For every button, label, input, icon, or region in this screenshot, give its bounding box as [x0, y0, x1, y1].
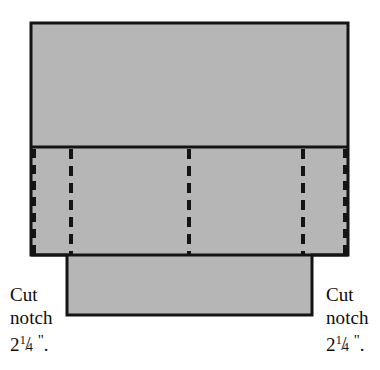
cut-notch-label-left: Cut notch 21/4".: [10, 283, 53, 356]
period-right: .: [360, 334, 365, 355]
fraction-denominator-left: 4: [27, 336, 33, 359]
period-left: .: [44, 334, 49, 355]
cut-notch-label-left-line2: notch: [10, 306, 53, 329]
fraction-right: 1/4: [336, 332, 354, 351]
cut-notch-label-right-line2: notch: [326, 306, 369, 329]
diagram-canvas: Cut notch 21/4". Cut notch 21/4".: [0, 0, 380, 370]
measure-whole-left: 2: [10, 334, 20, 355]
cut-notch-diagram: [0, 0, 380, 370]
cut-notch-label-left-measure: 21/4".: [10, 329, 53, 356]
cut-notch-label-right-measure: 21/4".: [326, 329, 369, 356]
fraction-denominator-right: 4: [343, 336, 349, 359]
cut-notch-label-right: Cut notch 21/4".: [326, 283, 369, 356]
fraction-left: 1/4: [20, 332, 38, 351]
cut-notch-label-right-line1: Cut: [326, 283, 369, 306]
cut-notch-label-left-line1: Cut: [10, 283, 53, 306]
measure-whole-right: 2: [326, 334, 336, 355]
